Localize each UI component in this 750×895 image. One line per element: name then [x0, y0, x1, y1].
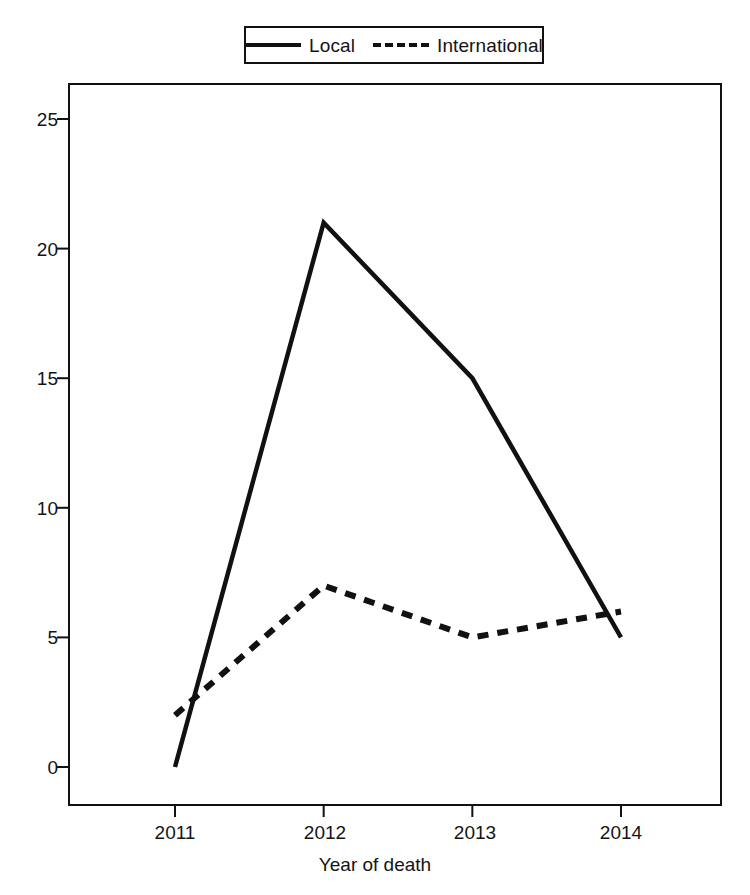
legend-line-solid-icon	[245, 43, 301, 47]
legend-label-international: International	[437, 36, 543, 55]
y-tick-label: 10	[12, 499, 58, 518]
y-tick-label: 20	[12, 240, 58, 259]
y-axis-tick-labels: 25 20 15 10 5 0	[0, 0, 58, 895]
chart-figure: Local International 25 20 15 10 5 0 2011…	[0, 0, 750, 895]
legend-label-local: Local	[309, 36, 355, 55]
x-tick-label-2012: 2012	[304, 823, 346, 842]
y-tick-label: 25	[12, 110, 58, 129]
legend-entry-local: Local	[245, 36, 355, 55]
y-tick-label: 5	[12, 628, 58, 647]
y-tick-label: 0	[12, 758, 58, 777]
x-axis-title: Year of death	[0, 855, 750, 874]
plot-area-frame	[68, 83, 722, 806]
legend-entry-international: International	[373, 36, 543, 55]
x-tick-label-2014: 2014	[600, 823, 642, 842]
chart-legend: Local International	[244, 26, 544, 64]
y-tick-label: 15	[12, 369, 58, 388]
legend-line-dashed-icon	[373, 43, 429, 47]
x-tick-label-2013: 2013	[454, 823, 496, 842]
x-tick-label-2011: 2011	[155, 823, 196, 842]
